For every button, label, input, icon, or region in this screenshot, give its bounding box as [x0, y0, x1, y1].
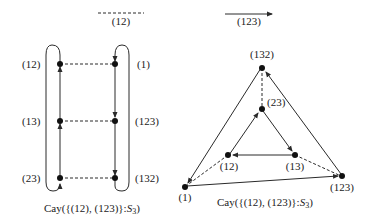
- right-cayley-graph: (132) (23) (12) (13) (1) (123) Cay({(12)…: [179, 48, 355, 210]
- left-loop-edge: [46, 45, 60, 191]
- node-12: [225, 152, 231, 158]
- edge-23-13: [263, 111, 292, 151]
- label-1: (1): [179, 191, 192, 204]
- right-loop-edge: [115, 45, 129, 191]
- label-1: (1): [137, 58, 150, 71]
- label-12: (12): [22, 58, 41, 71]
- right-caption: Cay({(12), (123)}:S3): [217, 196, 313, 210]
- cayley-diagram: (12) (123) (12) (13) (23) (1) (123) (132…: [0, 0, 372, 222]
- label-132: (132): [135, 172, 159, 185]
- node-23: [57, 175, 63, 181]
- node-23: [259, 106, 265, 112]
- node-13: [57, 118, 63, 124]
- node-132: [259, 65, 265, 71]
- node-1: [182, 184, 188, 190]
- legend: (12) (123): [98, 13, 272, 28]
- edge-1-123: [187, 176, 338, 186]
- label-123: (123): [135, 115, 159, 128]
- label-23: (23): [22, 172, 41, 185]
- edge-12-23: [229, 113, 258, 155]
- node-123: [339, 173, 345, 179]
- left-caption: Cay({(12), (123)}:S3): [44, 202, 140, 216]
- label-12: (12): [220, 160, 239, 173]
- label-13: (13): [22, 115, 41, 128]
- label-132: (132): [250, 48, 274, 61]
- label-23: (23): [267, 96, 286, 109]
- legend-dashed-label: (12): [112, 15, 131, 28]
- left-cayley-graph: (12) (13) (23) (1) (123) (132) Cay({(12)…: [22, 45, 159, 216]
- label-13: (13): [286, 160, 305, 173]
- edge-123-132: [266, 72, 341, 174]
- label-123: (123): [330, 181, 354, 194]
- node-13: [292, 152, 298, 158]
- node-132: [112, 175, 118, 181]
- node-1: [112, 61, 118, 67]
- legend-solid-label: (123): [237, 15, 261, 28]
- node-123: [112, 118, 118, 124]
- node-12: [57, 61, 63, 67]
